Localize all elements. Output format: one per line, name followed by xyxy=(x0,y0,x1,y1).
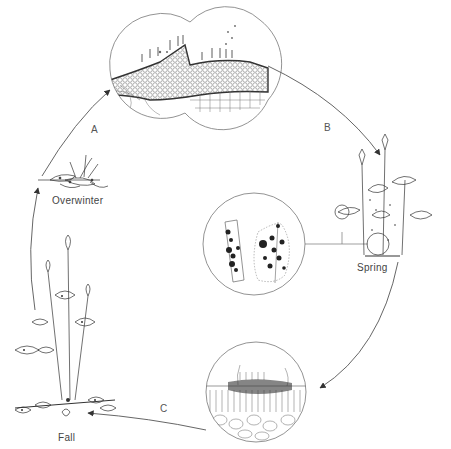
transition-label-C: C xyxy=(160,403,167,414)
fall-plant-illustration xyxy=(15,235,116,416)
sporulation-detail-inset xyxy=(110,7,282,130)
arrow-B xyxy=(268,66,380,155)
stage-label-spring: Spring xyxy=(357,262,388,273)
leaf-cross-section-inset xyxy=(200,342,310,442)
overwinter-plant-illustration xyxy=(38,155,108,188)
arrow-A xyxy=(42,90,110,176)
stage-label-overwinter: Overwinter xyxy=(52,195,103,206)
arrow-fall-to-overwinter xyxy=(31,188,38,310)
leaf-spot-detail-inset xyxy=(203,193,368,295)
disease-cycle-diagram xyxy=(0,0,451,449)
transition-label-B: B xyxy=(324,122,331,133)
stage-label-fall: Fall xyxy=(58,432,75,443)
arrow-spring-to-section xyxy=(320,262,398,388)
arrow-C xyxy=(88,413,206,430)
spring-plant-illustration xyxy=(335,134,432,256)
transition-label-A: A xyxy=(91,124,98,135)
